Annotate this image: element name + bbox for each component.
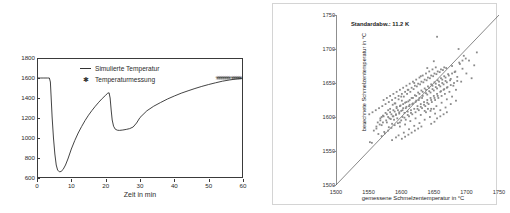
scatter-point: [437, 71, 439, 73]
scatter-point: [414, 130, 416, 132]
scatter-point: [446, 98, 448, 100]
scatter-point: [424, 119, 426, 121]
scatter-point: [441, 79, 443, 81]
scatter-point: [439, 109, 441, 111]
scatter-point: [385, 103, 387, 105]
scatter-point: [441, 102, 443, 104]
scatter-point: [419, 77, 421, 79]
y-tick-mark: [37, 178, 40, 179]
scatter-point: [383, 115, 385, 117]
scatter-point: [455, 100, 457, 102]
scatter-point: [404, 124, 406, 126]
scatter-point: [398, 111, 400, 113]
scatter-point: [386, 97, 388, 99]
scatter-point: [407, 134, 409, 136]
scatter-point: [404, 136, 406, 138]
scatter-point: [408, 128, 410, 130]
scatter-point: [416, 86, 418, 88]
x-tick-mark: [106, 179, 107, 182]
scatter-point: [406, 93, 408, 95]
scatter-point: [409, 120, 411, 122]
y-tick-mark: [37, 138, 40, 139]
scatter-point: [462, 68, 464, 70]
scatter-point: [460, 81, 462, 83]
scatter-point: [383, 99, 385, 101]
scatter-point: [396, 107, 398, 109]
scatter-point: [435, 83, 437, 85]
scatter-point: [407, 111, 409, 113]
scatter-point: [395, 113, 397, 115]
scatter-point: [387, 109, 389, 111]
scatter-point: [432, 69, 434, 71]
scatter-point: [392, 93, 394, 95]
scatter-point: [434, 121, 436, 123]
x-tick-mark: [37, 179, 38, 182]
scatter-point: [389, 117, 391, 119]
legend-item-measurement: ✱ Temperaturmessung: [80, 74, 185, 85]
scatter-point: [443, 66, 445, 68]
scatter-point: [445, 67, 447, 69]
scatter-point: [430, 97, 432, 99]
scatter-point: [410, 112, 412, 114]
scatter-point: [413, 108, 415, 110]
scatter-point: [423, 101, 425, 103]
scatter-point: [436, 117, 438, 119]
scatter-point: [426, 102, 428, 104]
scatter-point: [422, 81, 424, 83]
scatter-point: [440, 69, 442, 71]
y-tick-mark: [37, 78, 40, 79]
scatter-point: [428, 87, 430, 89]
scatter-point: [388, 101, 390, 103]
scatter-point: [432, 75, 434, 77]
scatter-point: [429, 116, 431, 118]
left-y-axis-ticks: 60080010001200140016001800: [5, 58, 35, 178]
scatter-point: [418, 99, 420, 101]
scatter-point: [394, 97, 396, 99]
scatter-point: [411, 103, 413, 105]
parity-scatter-chart: 150015501600165017001750 150015501600165…: [251, 0, 502, 213]
scatter-point: [422, 95, 424, 97]
scatter-point: [421, 81, 423, 83]
line-swatch-icon: [80, 68, 91, 69]
left-legend: Simulierte Temperatur ✱ Temperaturmessun…: [80, 63, 185, 87]
scatter-point: [402, 107, 404, 109]
scatter-point: [476, 52, 478, 54]
scatter-point: [437, 97, 439, 99]
scatter-point: [413, 88, 415, 90]
scatter-point: [379, 117, 381, 119]
scatter-point: [377, 133, 379, 135]
scatter-point: [401, 138, 403, 140]
scatter-point: [378, 107, 380, 109]
scatter-point: [404, 112, 406, 114]
scatter-point: [415, 79, 417, 81]
scatter-point: [446, 81, 448, 83]
scatter-point: [430, 108, 432, 110]
scatter-point: [436, 73, 438, 75]
scatter-point: [386, 122, 388, 124]
scatter-point: [373, 130, 375, 132]
scatter-point: [426, 67, 428, 69]
scatter-point: [394, 124, 396, 126]
scatter-point: [447, 86, 449, 88]
x-tick-label: 40: [171, 182, 178, 189]
scatter-point: [389, 108, 391, 110]
scatter-point: [411, 87, 413, 89]
scatter-point: [441, 95, 443, 97]
y-tick-mark: [333, 151, 336, 152]
scatter-point: [392, 115, 394, 117]
scatter-point: [376, 126, 378, 128]
scatter-point: [455, 89, 457, 91]
x-tick-mark: [174, 179, 175, 182]
scatter-point: [439, 71, 441, 73]
scatter-point: [445, 77, 447, 79]
scatter-point: [468, 60, 470, 62]
scatter-point: [465, 58, 467, 60]
scatter-point: [426, 79, 428, 81]
scatter-point: [451, 65, 453, 67]
y-tick-mark: [37, 58, 40, 59]
scatter-point: [425, 73, 427, 75]
scatter-point: [420, 103, 422, 105]
scatter-point: [381, 135, 383, 137]
scatter-point: [429, 77, 431, 79]
